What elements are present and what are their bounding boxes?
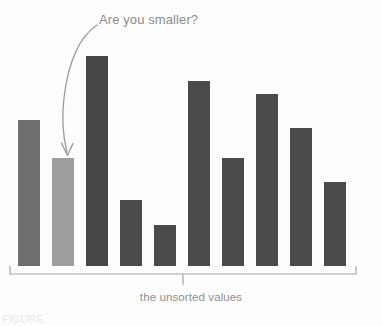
chart-canvas xyxy=(0,0,382,326)
arrow-head-path xyxy=(62,143,74,156)
bar-8 xyxy=(256,94,278,266)
bar-6 xyxy=(188,81,210,266)
callout-annotation-label: Are you smaller? xyxy=(99,12,198,27)
bars-group xyxy=(18,56,346,266)
bar-5 xyxy=(154,225,176,266)
bar-chart-figure: Are you smaller? the unsorted values FIG… xyxy=(0,0,382,326)
bar-10 xyxy=(324,182,346,266)
range-bracket xyxy=(10,266,356,285)
bar-1 xyxy=(18,120,40,266)
bar-9 xyxy=(290,128,312,266)
bar-4 xyxy=(120,200,142,266)
bar-3 xyxy=(86,56,108,266)
bar-7 xyxy=(222,158,244,266)
bar-2 xyxy=(52,158,74,266)
bracket-axis-label: the unsorted values xyxy=(0,291,382,303)
bracket-outline xyxy=(10,266,356,274)
page-edge-text-fragment: FIGURE xyxy=(2,313,44,324)
